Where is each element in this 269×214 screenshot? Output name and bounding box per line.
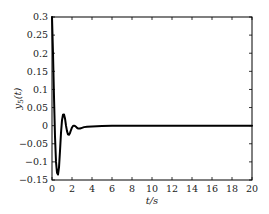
- y-tick-label: 0.25: [27, 29, 48, 40]
- y-tick-label: 0.2: [33, 48, 48, 59]
- y-tick-label: 0.1: [33, 84, 48, 95]
- x-tick-label: 18: [226, 183, 238, 194]
- y-axis-label-arg: (t): [12, 87, 23, 99]
- x-tick-label: 12: [166, 183, 178, 194]
- plot-frame: [52, 17, 252, 180]
- y-axis-label: y5(t): [12, 87, 25, 110]
- y-tick-label: −0.1: [25, 156, 48, 167]
- x-tick-label: 6: [109, 183, 115, 194]
- y-tick-label: 0.05: [27, 102, 48, 113]
- x-tick-label: 4: [89, 183, 95, 194]
- x-tick-label: 10: [146, 183, 158, 194]
- x-tick-label: 20: [246, 183, 258, 194]
- x-tick-label: 2: [69, 183, 75, 194]
- y-tick-label: −0.05: [19, 138, 48, 149]
- x-tick-label: 0: [49, 183, 55, 194]
- y-tick-label: 0.3: [33, 11, 48, 22]
- y-tick-label: 0.15: [27, 66, 48, 77]
- x-tick-label: 14: [186, 183, 198, 194]
- x-tick-label: 8: [129, 183, 135, 194]
- svg-text:y5(t): y5(t): [12, 87, 25, 110]
- y-tick-label: 0: [42, 120, 48, 131]
- y-tick-label: −0.15: [19, 174, 48, 185]
- series-line: [52, 17, 252, 175]
- x-tick-label: 16: [206, 183, 218, 194]
- chart: 02468101214161820−0.15−0.1−0.0500.050.10…: [0, 0, 269, 214]
- x-axis-label: t/s: [146, 195, 159, 206]
